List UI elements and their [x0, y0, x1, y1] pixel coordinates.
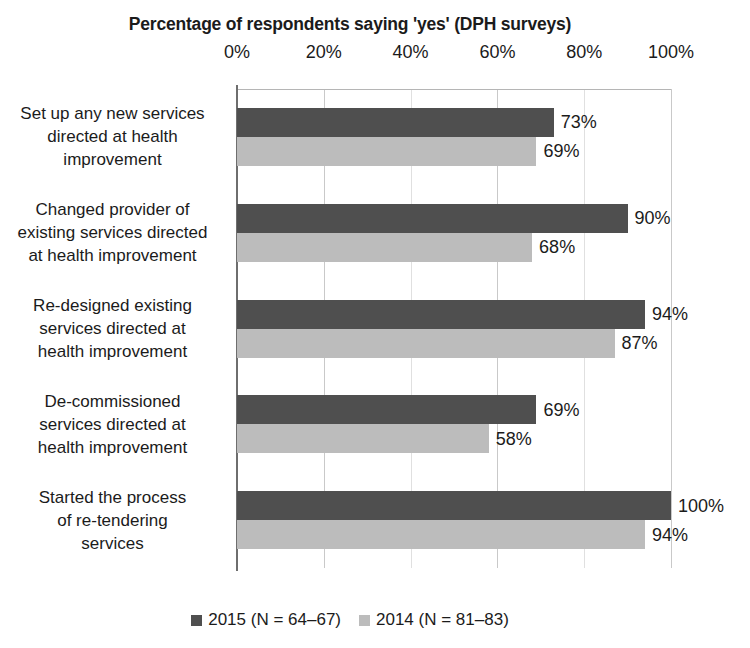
bar-row: 94%: [237, 520, 671, 549]
x-tick-label-3: 60%: [479, 42, 515, 63]
x-tick-label-5: 100%: [648, 42, 694, 63]
plot-area: 73%69%90%68%94%87%69%58%100%94%: [237, 89, 671, 568]
bar-group: 90%68%: [237, 204, 671, 262]
bar-row: 73%: [237, 108, 671, 137]
bar[interactable]: [237, 204, 628, 233]
category-label-line: Set up any new services: [0, 102, 225, 125]
bar[interactable]: [237, 329, 615, 358]
bar[interactable]: [237, 424, 489, 453]
legend-label: 2014 (N = 81–83): [376, 610, 509, 630]
category-label-line: directed at health: [0, 125, 225, 148]
bar-value-label: 68%: [532, 237, 575, 258]
category-label: De-commissionedservices directed athealt…: [0, 390, 225, 459]
bar[interactable]: [237, 137, 536, 166]
bar-row: 68%: [237, 233, 671, 262]
bar-value-label: 94%: [645, 304, 688, 325]
bar-row: 58%: [237, 424, 671, 453]
bar-value-label: 100%: [671, 495, 724, 516]
bar-group: 69%58%: [237, 395, 671, 453]
chart-legend: 2015 (N = 64–67)2014 (N = 81–83): [0, 610, 700, 630]
bar-row: 100%: [237, 491, 671, 520]
y-axis-category-labels: Set up any new servicesdirected at healt…: [0, 89, 225, 568]
bar[interactable]: [237, 300, 645, 329]
x-axis-tick-labels: 0%20%40%60%80%100%: [237, 42, 671, 68]
x-tick-label-2: 40%: [393, 42, 429, 63]
chart-title: Percentage of respondents saying 'yes' (…: [0, 14, 700, 35]
category-label-line: services directed at: [0, 317, 225, 340]
category-label: Re-designed existingservices directed at…: [0, 294, 225, 363]
bar-group: 100%94%: [237, 491, 671, 549]
bar-value-label: 87%: [615, 333, 658, 354]
x-tick-label-1: 20%: [306, 42, 342, 63]
legend-item-2014[interactable]: 2014 (N = 81–83): [359, 610, 509, 630]
bar-value-label: 73%: [554, 112, 597, 133]
category-label-line: De-commissioned: [0, 390, 225, 413]
legend-swatch-icon: [359, 615, 370, 626]
bar[interactable]: [237, 108, 554, 137]
bar[interactable]: [237, 491, 671, 520]
x-tick-label-4: 80%: [566, 42, 602, 63]
legend-item-2015[interactable]: 2015 (N = 64–67): [191, 610, 341, 630]
bar[interactable]: [237, 395, 536, 424]
bar-row: 90%: [237, 204, 671, 233]
category-label-line: Started the process: [0, 486, 225, 509]
bar-value-label: 69%: [536, 141, 579, 162]
bar-row: 94%: [237, 300, 671, 329]
bar-row: 69%: [237, 395, 671, 424]
category-label: Started the processof re-tenderingservic…: [0, 486, 225, 555]
x-tick-label-0: 0%: [224, 42, 250, 63]
bar-row: 87%: [237, 329, 671, 358]
category-label-line: health improvement: [0, 436, 225, 459]
category-label-line: of re-tendering: [0, 509, 225, 532]
category-label-line: services directed at: [0, 413, 225, 436]
bar-group: 73%69%: [237, 108, 671, 166]
category-label-line: Re-designed existing: [0, 294, 225, 317]
category-label: Changed provider ofexisting services dir…: [0, 198, 225, 267]
bar[interactable]: [237, 233, 532, 262]
category-label: Set up any new servicesdirected at healt…: [0, 102, 225, 171]
category-label-line: existing services directed: [0, 221, 225, 244]
bar[interactable]: [237, 520, 645, 549]
bar-value-label: 69%: [536, 399, 579, 420]
category-label-line: improvement: [0, 148, 225, 171]
bar-row: 69%: [237, 137, 671, 166]
legend-label: 2015 (N = 64–67): [208, 610, 341, 630]
bar-value-label: 90%: [628, 208, 671, 229]
axis-top-rule: [237, 89, 671, 90]
bar-value-label: 58%: [489, 428, 532, 449]
legend-swatch-icon: [191, 615, 202, 626]
bar-group: 94%87%: [237, 300, 671, 358]
category-label-line: services: [0, 532, 225, 555]
bar-value-label: 94%: [645, 524, 688, 545]
category-label-line: at health improvement: [0, 244, 225, 267]
category-label-line: Changed provider of: [0, 198, 225, 221]
category-label-line: health improvement: [0, 340, 225, 363]
